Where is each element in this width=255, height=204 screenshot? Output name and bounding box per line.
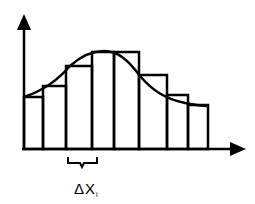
riemann-rectangle-1 (24, 97, 43, 149)
rectangles (24, 52, 208, 149)
riemann-rectangle-8 (188, 105, 208, 149)
delta-x-text: ΔX (74, 180, 96, 197)
riemann-diagram (0, 0, 255, 204)
riemann-rectangle-3 (66, 66, 92, 149)
delta-brace-icon (68, 157, 97, 167)
riemann-rectangle-4 (92, 52, 114, 149)
y-axis-arrow-icon (17, 14, 31, 30)
function-curve (24, 51, 208, 106)
riemann-rectangle-6 (139, 75, 167, 149)
delta-x-subscript: i (96, 191, 99, 198)
x-axis-arrow-icon (230, 142, 246, 156)
riemann-rectangle-2 (43, 86, 66, 149)
delta-x-label: ΔXi (74, 180, 99, 198)
riemann-rectangle-5 (114, 52, 139, 149)
